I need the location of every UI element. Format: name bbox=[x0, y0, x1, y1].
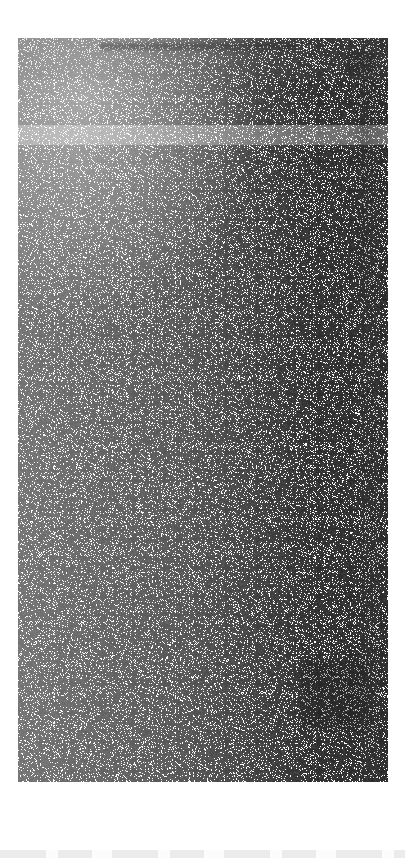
bottom-bar[interactable] bbox=[0, 850, 405, 858]
header-band bbox=[18, 38, 388, 80]
scrollbar-track[interactable] bbox=[360, 38, 380, 782]
bottom-bar-items bbox=[0, 850, 405, 858]
content-panel bbox=[18, 38, 388, 782]
header-title-text bbox=[100, 43, 296, 50]
row-separator-band bbox=[18, 125, 388, 145]
scrollbar-thumb[interactable] bbox=[355, 52, 370, 292]
